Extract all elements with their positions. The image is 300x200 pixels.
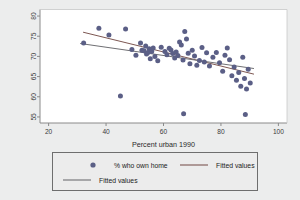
scatter-point: [182, 29, 187, 34]
scatter-point: [181, 111, 186, 116]
scatter-point: [123, 26, 128, 31]
chart-figure: 556065707580 20406080100 Percent urban 1…: [0, 0, 300, 200]
scatter-point: [81, 41, 86, 46]
scatter-point: [238, 84, 243, 89]
x-tick-label: 20: [45, 128, 53, 135]
scatter-point: [155, 58, 160, 63]
scatter-point: [244, 87, 249, 92]
scatter-point: [232, 64, 237, 69]
scatter-point: [240, 55, 245, 60]
scatter-point: [227, 57, 232, 62]
x-tick-label: 100: [273, 128, 284, 135]
scatter-point: [234, 78, 239, 83]
scatter-point: [179, 43, 184, 48]
scatter-point: [246, 67, 251, 72]
scatter-point: [202, 60, 207, 65]
scatter-point: [151, 45, 156, 50]
legend: % who own home Fitted values Fitted valu…: [53, 153, 258, 191]
legend-box: [53, 153, 258, 191]
scatter-point: [138, 41, 143, 46]
x-tick-label: 60: [160, 128, 168, 135]
scatter-point: [222, 53, 227, 58]
scatter-point: [194, 63, 199, 68]
scatter-point: [118, 93, 123, 98]
scatter-point: [248, 81, 253, 86]
x-tick-label: 80: [217, 128, 225, 135]
y-tick-label: 60: [31, 93, 38, 101]
scatter-point: [243, 112, 248, 117]
plot-area-background: [40, 10, 287, 123]
scatter-chart-svg: 556065707580 20406080100 Percent urban 1…: [0, 0, 300, 200]
y-tick-label: 70: [31, 52, 38, 60]
y-tick-label: 80: [31, 12, 38, 20]
y-tick-label: 55: [31, 113, 38, 121]
scatter-point: [96, 26, 101, 31]
legend-label-fitted-2: Fitted values: [99, 177, 138, 184]
scatter-point: [225, 45, 230, 50]
scatter-point: [175, 53, 180, 58]
scatter-point: [187, 61, 192, 66]
scatter-point: [186, 51, 191, 56]
scatter-point: [148, 56, 153, 61]
scatter-point: [242, 76, 247, 81]
scatter-point: [133, 53, 138, 58]
scatter-point: [197, 58, 202, 63]
scatter-point: [184, 37, 189, 42]
scatter-point: [106, 33, 111, 38]
scatter-point: [192, 54, 197, 59]
x-tick-label: 40: [102, 128, 110, 135]
scatter-point: [159, 45, 164, 50]
scatter-point: [217, 60, 222, 65]
scatter-point: [129, 47, 134, 52]
x-axis-label: Percent urban 1990: [132, 140, 195, 149]
legend-label-fitted-1: Fitted values: [216, 162, 255, 169]
scatter-point: [214, 50, 219, 55]
scatter-point: [207, 64, 212, 69]
y-tick-label: 65: [31, 73, 38, 81]
scatter-point: [236, 70, 241, 75]
scatter-point: [220, 69, 225, 74]
scatter-point: [181, 58, 186, 63]
scatter-point: [190, 48, 195, 53]
scatter-point: [229, 73, 234, 78]
scatter-point: [204, 50, 209, 55]
scatter-point: [210, 55, 215, 60]
scatter-point: [199, 45, 204, 50]
legend-label-own-home: % who own home: [114, 162, 168, 169]
scatter-point: [152, 54, 157, 59]
y-tick-label: 75: [31, 32, 38, 40]
legend-marker-own-home: [90, 162, 95, 167]
scatter-point: [164, 52, 169, 57]
